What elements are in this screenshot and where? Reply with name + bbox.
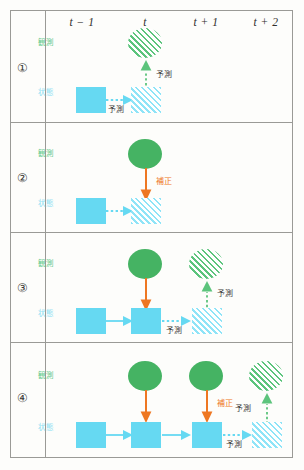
row-4-state-square-t-plus-1 — [192, 422, 222, 448]
row-4-state-square-t — [131, 422, 161, 448]
row-2-caption-correction: 補正 — [156, 178, 173, 186]
row-2-state-square-t-minus-1 — [76, 198, 106, 224]
row-1-observation-ellipse-t-predicted — [128, 28, 162, 58]
row-2-prediction-arrow-right — [106, 204, 134, 218]
panel-row-3: 観測 状態 予測 — [34, 232, 283, 342]
row-4-correction-arrow-t — [138, 390, 154, 424]
row-4-observation-ellipse-t-plus-1 — [189, 361, 223, 391]
row-1-state-label: 状態 — [38, 89, 53, 97]
row-3-state-square-t-minus-1 — [76, 308, 106, 334]
row-1-caption-prediction-up: 予測 — [156, 71, 173, 79]
row-4-transition-arrow-1 — [106, 428, 134, 442]
row-3-observation-label: 観測 — [38, 260, 53, 268]
row-4-observation-ellipse-t — [128, 361, 162, 391]
row-3-correction-arrow — [138, 278, 154, 312]
row-number-3: ③ — [10, 282, 34, 294]
row-3-observation-ellipse-t — [128, 249, 162, 279]
row-2-correction-arrow — [138, 168, 154, 202]
diagram-canvas: t − 1 t t + 1 t + 2 ① ② ③ ④ 観測 状態 予測 予測 — [0, 0, 304, 470]
row-number-4: ④ — [10, 392, 34, 404]
row-3-observation-ellipse-t-plus-1-predicted — [189, 249, 223, 279]
row-4-correction-arrow-t-plus-1 — [199, 390, 215, 424]
row-3-caption-prediction-right: 予測 — [166, 327, 183, 335]
row-4-caption-prediction-up: 予測 — [235, 405, 252, 413]
row-3-state-label: 状態 — [38, 310, 53, 318]
row-3-state-square-t — [131, 308, 161, 334]
row-number-1: ① — [10, 62, 34, 74]
row-2-observation-label: 観測 — [38, 150, 53, 158]
row-4-observation-label: 観測 — [38, 372, 53, 380]
row-2-observation-ellipse-t — [128, 139, 162, 169]
row-4-observation-ellipse-t-plus-2-predicted — [249, 361, 283, 391]
row-4-state-square-t-plus-2-predicted — [252, 422, 282, 448]
row-1-state-square-t-minus-1 — [76, 87, 106, 113]
row-4-state-square-t-minus-1 — [76, 422, 106, 448]
row-4-caption-correction: 補正 — [217, 400, 234, 408]
row-3-state-square-t-plus-1-predicted — [192, 308, 222, 334]
panel-row-1: 観測 状態 予測 予測 — [34, 11, 283, 122]
row-number-2: ② — [10, 172, 34, 184]
row-1-state-square-t-predicted — [131, 87, 161, 113]
row-1-caption-prediction-right: 予測 — [108, 106, 125, 114]
row-2-state-square-t-predicted — [131, 198, 161, 224]
row-3-caption-prediction-up: 予測 — [217, 290, 234, 298]
row-4-state-label: 状態 — [38, 424, 53, 432]
panel-row-4: 観測 状態 補正 予測 — [34, 342, 283, 458]
row-3-transition-arrow-1 — [106, 314, 134, 328]
panel-row-2: 観測 状態 補正 — [34, 122, 283, 232]
row-1-observation-label: 観測 — [38, 39, 53, 47]
row-4-transition-arrow-2 — [162, 428, 192, 442]
row-2-state-label: 状態 — [38, 200, 53, 208]
row-4-caption-prediction-right: 予測 — [226, 441, 243, 449]
row-4-prediction-arrow-up — [259, 392, 275, 424]
